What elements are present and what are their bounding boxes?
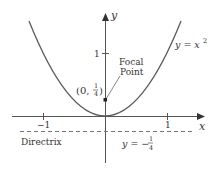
parabola-diagram: y x −1 1 1 y = x 2 Focal Point (0, 1 4 )…: [0, 0, 219, 171]
y-axis-label: y: [110, 9, 118, 22]
focal-coord-open: (0,: [76, 85, 89, 96]
focal-coord-close: ): [99, 85, 103, 96]
y-tick-label-1: 1: [94, 49, 100, 59]
curve-equation: y = x: [174, 39, 200, 50]
focal-point-marker: [104, 98, 108, 102]
directrix-eq-num: 1: [149, 135, 153, 143]
curve-equation-exponent: 2: [203, 37, 207, 45]
focal-leader-line: [106, 76, 120, 99]
focal-label-line2: Point: [120, 67, 144, 77]
x-axis-arrow-icon: [197, 113, 205, 120]
directrix-label: Directrix: [21, 137, 62, 147]
x-tick-label-neg1: −1: [37, 120, 50, 130]
y-axis-arrow-icon: [102, 13, 109, 21]
directrix-eq-den: 4: [149, 144, 153, 152]
focal-coord-den: 4: [94, 90, 98, 98]
focal-label-line1: Focal: [119, 57, 144, 67]
focal-coord-num: 1: [94, 82, 98, 90]
x-tick-label-1: 1: [165, 120, 171, 130]
x-axis-label: x: [199, 120, 206, 133]
directrix-eq-lhs: y = −: [121, 138, 149, 149]
